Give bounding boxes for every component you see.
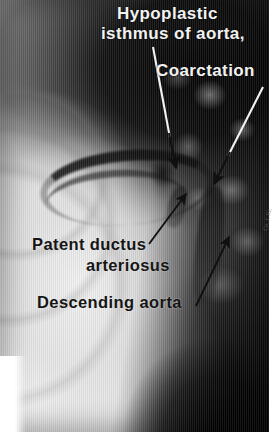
label-hypoplastic-isthmus-line1: Hypoplastic — [117, 4, 218, 24]
label-descending-aorta: Descending aorta — [37, 293, 182, 312]
angiogram-figure: Hypoplastic isthmus of aorta, Coarctatio… — [0, 0, 275, 446]
label-coarctation: Coarctation — [156, 61, 255, 81]
label-hypoplastic-isthmus-line2: isthmus of aorta, — [101, 24, 245, 44]
label-patent-ductus-line1: Patent ductus — [32, 235, 146, 254]
arrow-coarctation — [214, 87, 263, 184]
label-patent-ductus-line2: arteriosus — [86, 256, 170, 275]
arrow-patent-ductus — [149, 194, 186, 244]
arrow-descending-aorta — [196, 237, 229, 306]
